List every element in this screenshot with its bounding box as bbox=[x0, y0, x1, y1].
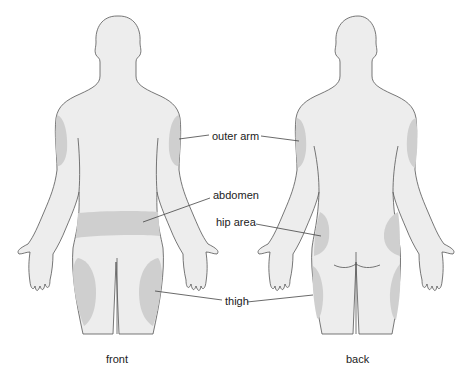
leader-outer-arm-front bbox=[179, 135, 209, 139]
caption-front: front bbox=[106, 353, 128, 365]
label-outer-arm: outer arm bbox=[212, 130, 259, 142]
front-figure bbox=[18, 16, 218, 334]
caption-back: back bbox=[346, 353, 369, 365]
label-thigh: thigh bbox=[225, 295, 249, 307]
label-abdomen: abdomen bbox=[213, 189, 259, 201]
leader-thigh-front bbox=[155, 291, 222, 300]
front-abdomen bbox=[76, 211, 160, 238]
label-hip-area: hip area bbox=[216, 216, 256, 228]
leader-thigh-back bbox=[247, 295, 313, 302]
leader-outer-arm-back bbox=[261, 136, 299, 141]
back-figure bbox=[258, 16, 454, 334]
